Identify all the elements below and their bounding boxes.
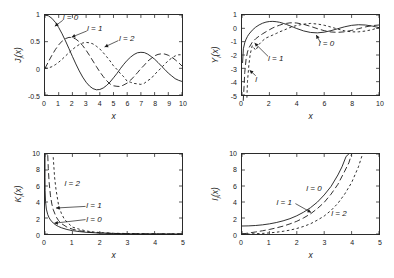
y-tick-label: 8 — [0, 166, 40, 173]
curve-annotation: l = 0 — [86, 215, 101, 224]
curve-annotation: l = 0 — [306, 184, 321, 193]
curve-annotation: l = 0 — [63, 13, 78, 22]
y-tick-label: 0 — [197, 24, 237, 31]
y-axis-title: Jl(x) — [13, 47, 25, 63]
x-tick-label: 6 — [322, 100, 326, 107]
x-tick-label: 2 — [98, 239, 102, 246]
x-tick-label: 2 — [267, 100, 271, 107]
curve-jl-1 — [45, 37, 182, 86]
y-tick-label: 0 — [0, 232, 40, 239]
curve-annotation: l — [255, 75, 257, 84]
x-axis-title: x — [308, 111, 312, 121]
x-tick-label: 10 — [179, 100, 187, 107]
x-tick-label: 2 — [295, 239, 299, 246]
y-tick-label: -3 — [197, 65, 237, 72]
x-tick-label: 4 — [98, 100, 102, 107]
y-tick-label: 2 — [0, 215, 40, 222]
x-tick-label: 8 — [153, 100, 157, 107]
plot-area-kl — [44, 153, 183, 235]
y-axis-title-subscript: l — [216, 197, 222, 198]
panel-il: 0123450246810xIl(x) l = 0l = 1l = 2 — [197, 139, 394, 278]
curve-kl-2 — [53, 157, 182, 234]
x-tick-label: 10 — [376, 100, 384, 107]
curve-annotation: l = 2 — [331, 209, 346, 218]
y-axis-title: Kl(x) — [13, 186, 25, 203]
y-tick-label: -4 — [197, 79, 237, 86]
curve-kl-1 — [48, 155, 182, 234]
x-tick-label: 5 — [112, 100, 116, 107]
y-axis-title-subscript: l — [216, 56, 222, 57]
y-tick-label: 0.5 — [0, 38, 40, 45]
x-axis-title: x — [308, 250, 312, 260]
plot-area-il — [241, 153, 380, 235]
x-tick-label: 1 — [267, 239, 271, 246]
x-tick-label: 3 — [84, 100, 88, 107]
x-tick-label: 8 — [350, 100, 354, 107]
y-tick-label: -5 — [197, 93, 237, 100]
y-axis-title-subscript: l — [19, 195, 25, 196]
annotation-leader-line — [56, 206, 86, 208]
annotation-arrowhead — [56, 206, 60, 210]
panel-jl: 012345678910-0.500.51xJl(x) l = 0l = 1l … — [0, 0, 197, 139]
y-tick-label: 0 — [197, 232, 237, 239]
x-tick-label: 4 — [295, 100, 299, 107]
curve-yl-1 — [243, 23, 379, 101]
x-tick-label: 3 — [322, 239, 326, 246]
curve-annotation: l = 0 — [319, 39, 334, 48]
x-tick-label: 1 — [70, 239, 74, 246]
y-tick-label: -0.5 — [0, 93, 40, 100]
y-axis-title: Il(x) — [210, 187, 222, 201]
y-tick-label: 2 — [197, 215, 237, 222]
y-tick-label: 10 — [197, 150, 237, 157]
x-axis-title: x — [111, 111, 115, 121]
y-axis-title: Yl(x) — [210, 47, 222, 64]
y-axis-title-tail: (x) — [210, 47, 220, 57]
x-tick-label: 0 — [42, 100, 46, 107]
x-tick-label: 2 — [70, 100, 74, 107]
curves-il — [242, 154, 379, 234]
y-tick-label: -1 — [197, 38, 237, 45]
curve-annotation: l = 2 — [65, 179, 80, 188]
x-tick-label: 0 — [239, 100, 243, 107]
curves-yl — [242, 15, 379, 95]
x-tick-label: 7 — [139, 100, 143, 107]
x-tick-label: 1 — [56, 100, 60, 107]
x-tick-label: 5 — [378, 239, 382, 246]
y-axis-title-symbol: Y — [210, 58, 220, 64]
curve-annotation: l = 1 — [268, 54, 283, 63]
y-tick-label: 0 — [0, 65, 40, 72]
curve-yl-0 — [243, 21, 379, 63]
y-tick-label: 1 — [197, 11, 237, 18]
curves-jl — [45, 15, 182, 95]
y-axis-title-symbol: K — [13, 197, 23, 203]
x-tick-label: 0 — [42, 239, 46, 246]
curve-jl-0 — [45, 15, 182, 90]
curves-kl — [45, 154, 182, 234]
x-tick-label: 3 — [125, 239, 129, 246]
curve-annotation: l = 1 — [86, 201, 101, 210]
curve-yl-2 — [247, 23, 379, 97]
y-axis-title-tail: (x) — [13, 186, 23, 196]
curve-il-2 — [242, 154, 363, 234]
y-axis-title-tail: (x) — [13, 47, 23, 57]
y-axis-title-subscript: l — [19, 57, 25, 58]
curve-annotation: l = 1 — [277, 198, 292, 207]
y-axis-title-symbol: J — [13, 59, 23, 63]
bessel-functions-figure: 012345678910-0.500.51xJl(x) l = 0l = 1l … — [0, 0, 394, 278]
plot-area-jl — [44, 14, 183, 96]
panel-yl: 0246810-5-4-3-2-101xYl(x) l = 0l = 1l — [197, 0, 394, 139]
x-tick-label: 4 — [350, 239, 354, 246]
y-tick-label: 8 — [197, 166, 237, 173]
x-tick-label: 5 — [181, 239, 185, 246]
curve-il-1 — [242, 154, 352, 234]
panel-kl: 0123450246810xKl(x) l = 2l = 1l = 0 — [0, 139, 197, 278]
curve-annotation: l = 2 — [119, 34, 134, 43]
y-axis-title-tail: (x) — [210, 187, 220, 197]
x-axis-title: x — [111, 250, 115, 260]
y-tick-label: 1 — [0, 11, 40, 18]
curve-annotation: l = 1 — [87, 24, 102, 33]
x-tick-label: 4 — [153, 239, 157, 246]
x-tick-label: 6 — [125, 100, 129, 107]
x-tick-label: 0 — [239, 239, 243, 246]
plot-area-yl — [241, 14, 380, 96]
